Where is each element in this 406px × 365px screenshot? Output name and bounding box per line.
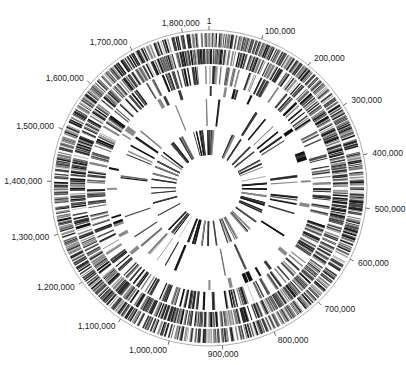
tick-label: 1,600,000	[46, 73, 84, 83]
tick-mark	[262, 35, 263, 39]
feature-mark	[191, 50, 193, 65]
feature-mark	[152, 179, 177, 183]
tick-mark	[87, 81, 90, 84]
feature-mark	[154, 79, 162, 95]
feature-mark	[72, 207, 87, 209]
feature-mark	[220, 249, 225, 276]
feature-mark	[87, 193, 105, 194]
feature-mark	[223, 34, 224, 48]
feature-mark	[158, 204, 180, 216]
tick-mark	[118, 319, 120, 322]
feature-mark	[198, 312, 199, 327]
tick-label: 1,400,000	[4, 176, 42, 186]
tick-mark	[79, 282, 82, 284]
tick-label: 200,000	[314, 53, 345, 63]
feature-mark	[255, 267, 260, 276]
feature-mark	[311, 166, 329, 169]
feature-mark	[179, 90, 182, 100]
feature-mark	[176, 105, 186, 130]
feature-mark	[122, 134, 130, 139]
feature-mark	[194, 34, 195, 48]
feature-mark	[93, 219, 110, 224]
feature-mark	[268, 88, 278, 103]
feature-mark	[333, 195, 348, 196]
feature-mark	[275, 93, 286, 107]
tick-label: 1,100,000	[78, 321, 116, 331]
feature-mark	[164, 96, 168, 105]
tick-label: 400,000	[372, 148, 403, 158]
tick-mark	[130, 47, 132, 50]
ring-6	[151, 130, 267, 246]
feature-mark	[180, 289, 184, 306]
feature-mark	[119, 231, 128, 236]
feature-mark	[265, 261, 271, 269]
tick-mark	[168, 341, 169, 345]
feature-mark	[270, 199, 297, 204]
tick-mark	[59, 128, 63, 129]
tick-label: 500,000	[375, 204, 406, 214]
tick-mark	[366, 208, 370, 209]
tick-mark	[182, 28, 183, 32]
feature-mark	[136, 90, 147, 104]
feature-mark	[247, 95, 251, 104]
feature-mark	[225, 217, 237, 239]
feature-mark	[253, 282, 261, 298]
feature-mark	[159, 99, 164, 108]
tick-label: 1	[207, 16, 212, 26]
feature-mark	[74, 155, 89, 159]
tick-label: 900,000	[208, 349, 239, 359]
tick-label: 1,200,000	[37, 282, 75, 292]
feature-mark	[212, 292, 213, 310]
feature-mark	[235, 327, 238, 341]
feature-mark	[234, 245, 245, 270]
feature-mark	[174, 245, 185, 270]
feature-mark	[202, 312, 203, 327]
feature-mark	[54, 193, 68, 194]
feature-mark	[301, 181, 311, 182]
feature-mark	[216, 33, 217, 47]
feature-mark	[215, 33, 216, 47]
feature-mark	[106, 244, 121, 254]
backbone-circle	[51, 30, 367, 346]
feature-mark	[224, 87, 226, 97]
feature-mark	[106, 243, 121, 253]
feature-mark	[148, 233, 166, 253]
feature-mark	[153, 196, 177, 202]
feature-mark	[220, 249, 225, 276]
tick-label: 1,000,000	[129, 345, 167, 355]
feature-mark	[70, 194, 85, 195]
feature-mark	[333, 180, 348, 181]
ring-4	[107, 86, 311, 290]
feature-mark	[149, 279, 158, 295]
circular-genome-map: 1100,000200,000300,000400,000500,000600,…	[0, 0, 406, 365]
feature-mark	[245, 73, 251, 90]
feature-mark	[229, 278, 231, 288]
ring-5	[121, 99, 298, 276]
feature-mark	[300, 204, 310, 206]
feature-mark	[120, 104, 133, 116]
feature-mark	[109, 168, 119, 170]
tick-label: 300,000	[351, 95, 382, 105]
feature-mark	[279, 248, 287, 255]
feature-mark	[288, 81, 298, 93]
tick-label: 700,000	[325, 304, 356, 314]
feature-mark	[247, 272, 251, 281]
feature-mark	[242, 189, 267, 190]
tick-mark	[274, 332, 276, 336]
tick-label: 600,000	[358, 258, 389, 268]
feature-mark	[289, 255, 303, 267]
tick-mark	[318, 302, 321, 305]
feature-mark	[203, 329, 204, 343]
feature-mark	[54, 182, 68, 183]
feature-mark	[297, 158, 307, 161]
feature-mark	[216, 312, 217, 327]
genes-forward-strand	[54, 33, 364, 343]
feature-mark	[350, 196, 364, 197]
feature-mark	[235, 244, 246, 269]
feature-mark	[151, 191, 176, 193]
feature-mark	[261, 278, 270, 294]
feature-mark	[55, 174, 69, 175]
feature-mark	[131, 247, 139, 253]
feature-mark	[260, 137, 282, 152]
feature-mark	[261, 221, 284, 236]
